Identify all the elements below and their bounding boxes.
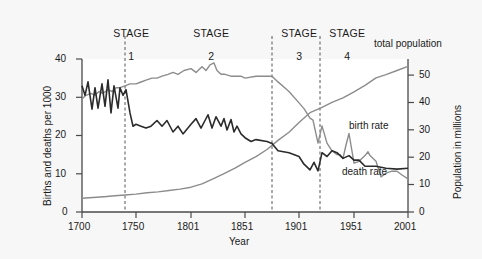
- y2-tick-label-20: 20: [419, 151, 430, 162]
- y2-tick-label-10: 10: [419, 178, 430, 189]
- demographic-transition-figure: STAGE 1 STAGE 2 STAGE 3 STAGE 4 total po…: [0, 0, 482, 259]
- stage-1-title: STAGE: [113, 27, 149, 39]
- x-tick-label-1801: 1801: [177, 221, 199, 232]
- stage-2-number: 2: [208, 50, 214, 62]
- y-tick-label-10: 10: [55, 168, 66, 179]
- y-tick-label-0: 0: [62, 206, 68, 217]
- x-tick-label-1901: 1901: [285, 221, 307, 232]
- stage-4-number: 4: [344, 50, 350, 62]
- y-tick-label-20: 20: [55, 129, 66, 140]
- stage-3-number: 3: [296, 50, 302, 62]
- stage-2-title: STAGE: [193, 27, 229, 39]
- y-tick-label-30: 30: [55, 91, 66, 102]
- stage-label-1: STAGE 1: [80, 16, 170, 74]
- x-tick-label-1851: 1851: [231, 221, 253, 232]
- y2-tick-label-40: 40: [419, 96, 430, 107]
- x-tick-label-1700: 1700: [68, 221, 90, 232]
- y2-tick-label-30: 30: [419, 124, 430, 135]
- x-tick-label-1951: 1951: [340, 221, 362, 232]
- stage-label-2: STAGE 2: [160, 16, 250, 74]
- plot-background: [82, 59, 408, 212]
- stage-1-number: 1: [128, 50, 134, 62]
- y-axis-title: Births and deaths per 1000: [42, 86, 53, 206]
- x-tick-label-1750: 1750: [122, 221, 144, 232]
- x-tick-label-2001: 2001: [394, 221, 416, 232]
- stage-4-title: STAGE: [329, 27, 365, 39]
- y2-tick-label-0: 0: [419, 206, 425, 217]
- stage-label-4: STAGE 4: [306, 16, 376, 74]
- annotation-total-population: total population: [374, 38, 442, 49]
- y2-tick-label-50: 50: [419, 69, 430, 80]
- annotation-death-rate: death rate: [342, 166, 387, 177]
- y2-axis-title: Population in millions: [452, 105, 463, 199]
- x-axis-title: Year: [229, 236, 249, 247]
- y-tick-label-40: 40: [55, 53, 66, 64]
- annotation-birth-rate: birth rate: [349, 120, 388, 131]
